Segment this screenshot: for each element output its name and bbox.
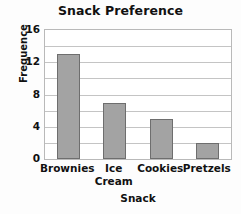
y-tick-label: 16	[18, 23, 40, 35]
x-tick-label: Pretzels	[178, 162, 237, 175]
x-tick-label-line: Cookies	[137, 162, 183, 174]
x-tick-label-line: Cream	[85, 175, 144, 188]
y-tick-label: 8	[18, 88, 40, 100]
bar	[196, 143, 219, 159]
x-axis-tick-labels: BrowniesIceCreamCookiesPretzels	[44, 162, 232, 196]
x-tick-label-line: Pretzels	[183, 162, 231, 174]
bar	[103, 103, 126, 159]
y-axis-tick-labels: 0481216	[16, 29, 40, 160]
bar	[57, 54, 80, 159]
chart-title: Snack Preference	[0, 3, 241, 18]
x-tick-label-line: Ice	[105, 162, 122, 174]
chart-figure: Snack Preference Frequence 0481216 Brown…	[0, 0, 241, 214]
plot-area	[44, 29, 232, 160]
gridline	[45, 46, 231, 47]
y-tick-label: 12	[18, 55, 40, 67]
x-axis-label: Snack	[44, 192, 232, 204]
y-tick-label: 4	[18, 120, 40, 132]
bar	[150, 119, 173, 159]
y-tick-label: 0	[18, 152, 40, 164]
